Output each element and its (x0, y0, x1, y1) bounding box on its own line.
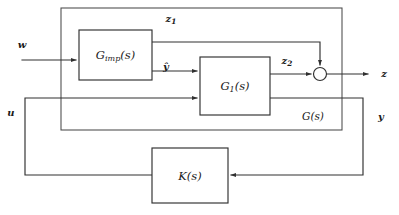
plant-label-gs: G(s) (302, 110, 324, 122)
signal-label-u: u (7, 107, 14, 118)
block-diagram-canvas: Gimp(s) G1(s) K(s) w z1 ŷ z2 z u (0, 0, 399, 215)
block-g1-label: G1(s) (220, 79, 249, 94)
control-block-diagram: Gimp(s) G1(s) K(s) w z1 ŷ z2 z u (0, 0, 399, 215)
block-k[interactable]: K(s) (152, 148, 228, 203)
block-k-label: K(s) (177, 169, 201, 183)
signal-label-y: y (377, 111, 385, 122)
summing-junction (314, 68, 327, 81)
signal-label-z2: z2 (281, 55, 293, 68)
signal-label-z1: z1 (165, 13, 177, 26)
block-g-imp[interactable]: Gimp(s) (79, 30, 152, 80)
block-g1[interactable]: G1(s) (200, 57, 270, 115)
signal-label-w: w (18, 39, 27, 50)
signal-label-yhat: ŷ (162, 61, 170, 72)
signal-label-z: z (380, 68, 387, 79)
